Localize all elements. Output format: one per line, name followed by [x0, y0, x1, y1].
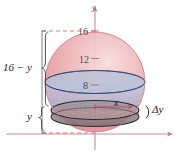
- tick-label-12: 12: [79, 55, 89, 65]
- radius-label: x: [114, 98, 118, 108]
- y-axis-label: y: [92, 3, 96, 12]
- tick-label-16: 16: [78, 27, 88, 37]
- tick-label-8: 8: [83, 81, 88, 91]
- lower-bracket-label: y: [27, 111, 32, 122]
- figure-canvas: [0, 0, 178, 154]
- representative-disk: [51, 101, 139, 127]
- lower-brace: [39, 107, 44, 131]
- sphere-disk-figure: y 16 12 8 16 − y y Δy x: [0, 0, 178, 154]
- delta-y-label: Δy: [152, 104, 163, 115]
- upper-bracket-label: 16 − y: [3, 62, 32, 73]
- delta-y-brace: [146, 106, 149, 118]
